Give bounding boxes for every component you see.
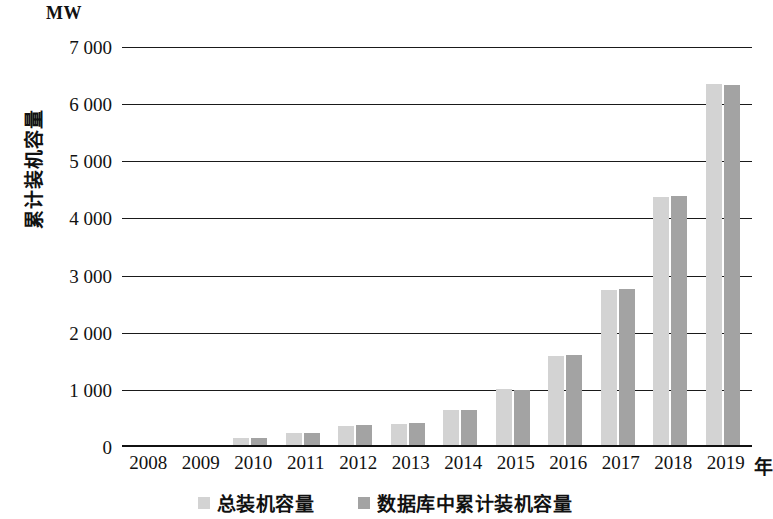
y-axis-tick-label: 6 000 — [0, 95, 112, 114]
legend-label: 总装机容量 — [217, 489, 315, 516]
x-axis-tick-label: 2015 — [490, 452, 543, 474]
x-axis-unit-label: 年 — [754, 452, 773, 479]
y-axis-unit-label: MW — [46, 3, 82, 24]
legend-swatch-icon — [198, 497, 210, 509]
bar — [496, 389, 512, 447]
bar — [443, 410, 459, 447]
bar — [671, 196, 687, 447]
x-axis-tick-label: 2008 — [122, 452, 175, 474]
chart-legend: 总装机容量数据库中累计装机容量 — [0, 489, 770, 516]
bar-group — [437, 47, 490, 447]
bar — [548, 356, 564, 447]
x-axis-tick-label: 2017 — [595, 452, 648, 474]
legend-swatch-icon — [358, 497, 370, 509]
bar-group — [280, 47, 333, 447]
bar — [461, 410, 477, 447]
plot-area: 01 0002 0003 0004 0005 0006 0007 000 — [122, 47, 752, 447]
bar — [566, 355, 582, 447]
x-axis-tick-label: 2014 — [437, 452, 490, 474]
bar-group — [700, 47, 753, 447]
bar — [619, 289, 635, 447]
bar — [514, 390, 530, 447]
x-axis-tick-label: 2011 — [280, 452, 333, 474]
bar — [409, 423, 425, 447]
x-axis-tick-label: 2018 — [647, 452, 700, 474]
x-axis-line — [122, 445, 752, 447]
bars-layer — [122, 47, 752, 447]
x-axis-tick-labels: 2008200920102011201220132014201520162017… — [122, 452, 752, 480]
bar — [356, 425, 372, 447]
y-axis-tick-label: 4 000 — [0, 209, 112, 228]
bar — [338, 426, 354, 447]
bar-group — [227, 47, 280, 447]
y-axis-tick-label: 7 000 — [0, 38, 112, 57]
bar-group — [542, 47, 595, 447]
x-axis-tick-label: 2019 — [700, 452, 753, 474]
legend-item[interactable]: 总装机容量 — [198, 489, 315, 516]
bar — [706, 84, 722, 447]
bar-group — [490, 47, 543, 447]
bar — [391, 424, 407, 447]
bar-group — [595, 47, 648, 447]
bar — [601, 290, 617, 447]
y-axis-tick-label: 5 000 — [0, 152, 112, 171]
x-axis-tick-label: 2013 — [385, 452, 438, 474]
bar-group — [647, 47, 700, 447]
legend-label: 数据库中累计装机容量 — [377, 489, 572, 516]
y-axis-tick-label: 3 000 — [0, 266, 112, 285]
bar-group — [175, 47, 228, 447]
x-axis-tick-label: 2009 — [175, 452, 228, 474]
x-axis-tick-label: 2010 — [227, 452, 280, 474]
x-axis-tick-label: 2016 — [542, 452, 595, 474]
bar-group — [122, 47, 175, 447]
bar-group — [385, 47, 438, 447]
x-axis-tick-label: 2012 — [332, 452, 385, 474]
legend-item[interactable]: 数据库中累计装机容量 — [358, 489, 572, 516]
bar-group — [332, 47, 385, 447]
y-axis-tick-label: 0 — [0, 438, 112, 457]
bar — [724, 85, 740, 447]
bar — [653, 197, 669, 447]
y-axis-tick-label: 1 000 — [0, 380, 112, 399]
y-axis-tick-label: 2 000 — [0, 323, 112, 342]
